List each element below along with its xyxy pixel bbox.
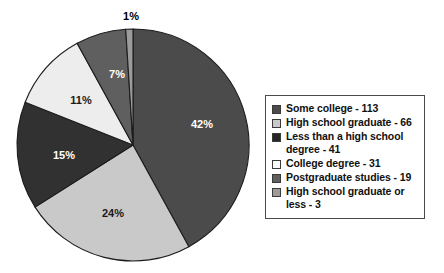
legend-color-swatch bbox=[272, 174, 281, 183]
legend-item-label: Some college - 113 bbox=[286, 102, 378, 115]
legend-item[interactable]: College degree - 31 bbox=[272, 157, 419, 170]
legend-color-swatch bbox=[272, 119, 281, 128]
legend-color-swatch bbox=[272, 133, 281, 142]
legend-item[interactable]: High school graduate - 66 bbox=[272, 116, 419, 129]
chart-legend: Some college - 113High school graduate -… bbox=[265, 95, 425, 219]
pie-chart-svg: 42%24%15%11%7%1% bbox=[0, 0, 268, 273]
legend-color-swatch bbox=[272, 188, 281, 197]
legend-item-label: College degree - 31 bbox=[286, 157, 380, 170]
legend-item-label: High school graduate or less - 3 bbox=[286, 185, 419, 211]
legend-item[interactable]: Some college - 113 bbox=[272, 102, 419, 115]
pie-slice-percent-label: 11% bbox=[70, 94, 92, 106]
pie-slice-percent-label: 1% bbox=[123, 10, 139, 22]
pie-slice-percent-label: 24% bbox=[102, 207, 124, 219]
legend-item[interactable]: Less than a high school degree - 41 bbox=[272, 130, 419, 156]
pie-chart-area: 42%24%15%11%7%1% bbox=[0, 0, 268, 273]
pie-slice-percent-label: 42% bbox=[191, 118, 213, 130]
pie-chart-screenshot: 42%24%15%11%7%1% Some college - 113High … bbox=[0, 0, 444, 273]
legend-item-label: High school graduate - 66 bbox=[286, 116, 412, 129]
legend-item-label: Postgraduate studies - 19 bbox=[286, 171, 411, 184]
legend-color-swatch bbox=[272, 105, 281, 114]
pie-slice-percent-label: 7% bbox=[109, 68, 125, 80]
legend-item[interactable]: High school graduate or less - 3 bbox=[272, 185, 419, 211]
legend-color-swatch bbox=[272, 160, 281, 169]
legend-item-label: Less than a high school degree - 41 bbox=[286, 130, 419, 156]
pie-slice-group bbox=[17, 29, 249, 261]
legend-item[interactable]: Postgraduate studies - 19 bbox=[272, 171, 419, 184]
pie-slice-percent-label: 15% bbox=[53, 149, 75, 161]
